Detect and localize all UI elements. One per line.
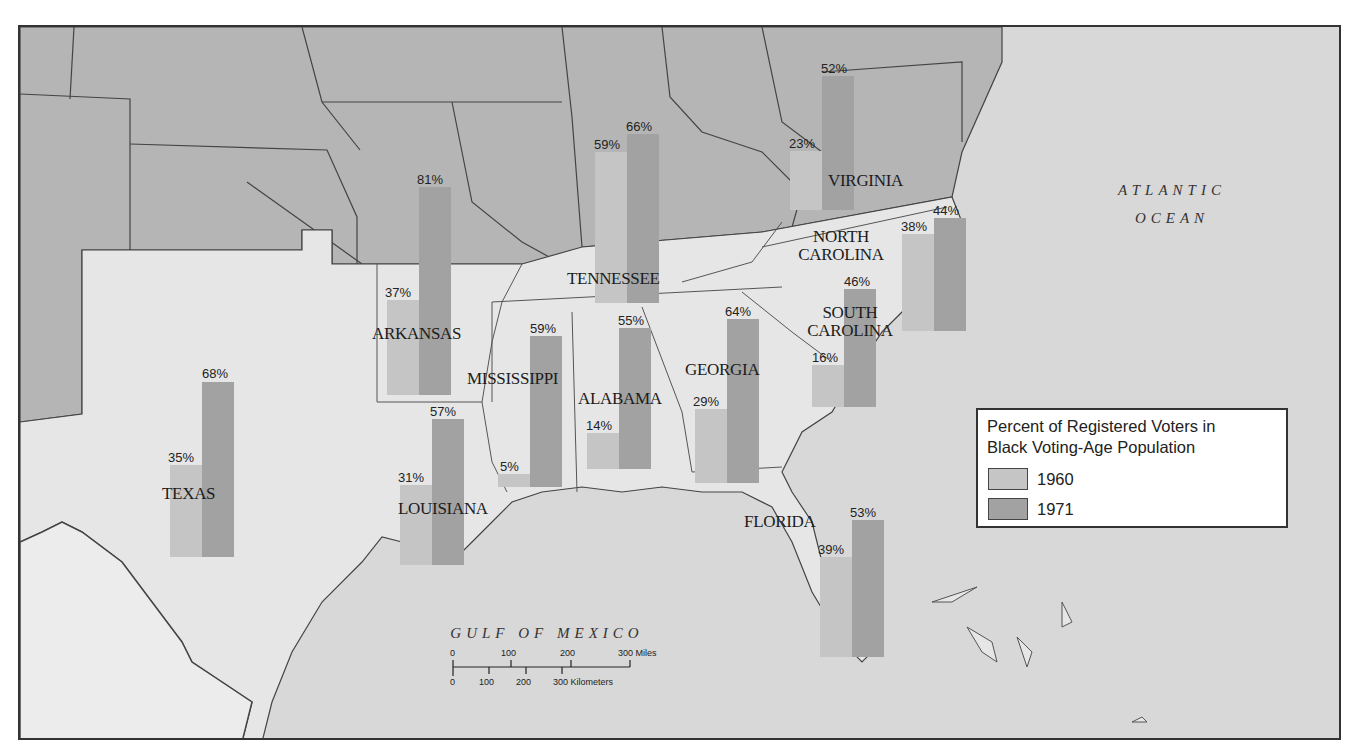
bar-north-carolina-1971 bbox=[934, 218, 966, 331]
scale-km-300: 300 Kilometers bbox=[553, 677, 613, 687]
state-label-virginia: VIRGINIA bbox=[828, 172, 903, 190]
legend-swatch-1960 bbox=[988, 468, 1028, 490]
scale-bar: 0 100 200 300 Miles 0 100 200 300 Kilome… bbox=[440, 650, 640, 710]
bar-alabama-1960 bbox=[587, 433, 619, 469]
legend-title-line2: Black Voting-Age Population bbox=[987, 437, 1215, 458]
bar-georgia-1971 bbox=[727, 319, 759, 483]
scale-miles-100: 100 bbox=[501, 648, 516, 658]
pct-tennessee-1960: 59% bbox=[594, 138, 620, 151]
state-label-north-carolina-line1: NORTH bbox=[787, 228, 895, 246]
state-label-florida: FLORIDA bbox=[744, 513, 816, 531]
legend: Percent of Registered Voters in Black Vo… bbox=[976, 408, 1288, 528]
legend-title: Percent of Registered Voters in Black Vo… bbox=[987, 416, 1215, 458]
bar-arkansas-1971 bbox=[419, 187, 451, 395]
bar-texas-1971 bbox=[202, 382, 234, 557]
pct-georgia-1960: 29% bbox=[693, 395, 719, 408]
state-label-north-carolina-line2: CAROLINA bbox=[787, 246, 895, 264]
scale-km-100: 100 bbox=[479, 677, 494, 687]
state-label-louisiana: LOUISIANA bbox=[398, 500, 488, 518]
pct-alabama-1960: 14% bbox=[586, 419, 612, 432]
state-label-texas: TEXAS bbox=[162, 485, 215, 503]
pct-mississippi-1960: 5% bbox=[500, 460, 519, 473]
pct-alabama-1971: 55% bbox=[618, 314, 644, 327]
pct-south-carolina-1971: 46% bbox=[844, 275, 870, 288]
pct-arkansas-1960: 37% bbox=[385, 286, 411, 299]
state-label-north-carolina: NORTH CAROLINA bbox=[787, 228, 895, 264]
bar-louisiana-1960 bbox=[400, 485, 432, 565]
state-label-alabama: ALABAMA bbox=[578, 390, 662, 408]
pct-tennessee-1971: 66% bbox=[626, 120, 652, 133]
legend-title-line1: Percent of Registered Voters in bbox=[987, 416, 1215, 437]
pct-louisiana-1971: 57% bbox=[430, 405, 456, 418]
bar-north-carolina-1960 bbox=[902, 234, 934, 331]
legend-label-1960: 1960 bbox=[1037, 470, 1074, 489]
pct-north-carolina-1971: 44% bbox=[933, 204, 959, 217]
legend-swatch-1971 bbox=[988, 498, 1028, 520]
bar-georgia-1960 bbox=[695, 409, 727, 483]
bar-louisiana-1971 bbox=[432, 419, 464, 565]
legend-item-1971: 1971 bbox=[988, 498, 1074, 520]
bar-arkansas-1960 bbox=[387, 300, 419, 395]
pct-texas-1971: 68% bbox=[202, 367, 228, 380]
pct-mississippi-1971: 59% bbox=[530, 322, 556, 335]
bar-virginia-1960 bbox=[790, 151, 822, 210]
state-label-georgia: GEORGIA bbox=[685, 361, 759, 379]
state-label-tennessee: TENNESSEE bbox=[567, 270, 660, 288]
state-label-south-carolina-line1: SOUTH bbox=[800, 304, 900, 322]
pct-georgia-1971: 64% bbox=[725, 305, 751, 318]
pct-virginia-1960: 23% bbox=[789, 137, 815, 150]
state-label-south-carolina: SOUTH CAROLINA bbox=[800, 304, 900, 340]
scale-km-200: 200 bbox=[516, 677, 531, 687]
bar-florida-1960 bbox=[820, 557, 852, 657]
bar-mississippi-1960 bbox=[498, 474, 530, 487]
legend-item-1960: 1960 bbox=[988, 468, 1074, 490]
pct-virginia-1971: 52% bbox=[821, 62, 847, 75]
legend-label-1971: 1971 bbox=[1037, 500, 1074, 519]
state-label-south-carolina-line2: CAROLINA bbox=[800, 322, 900, 340]
pct-texas-1960: 35% bbox=[168, 451, 194, 464]
bar-florida-1971 bbox=[852, 520, 884, 657]
state-label-mississippi: MISSISSIPPI bbox=[467, 370, 558, 388]
scale-miles-200: 200 bbox=[560, 648, 575, 658]
bar-texas-1960 bbox=[170, 465, 202, 557]
pct-arkansas-1971: 81% bbox=[417, 173, 443, 186]
scale-miles-0: 0 bbox=[450, 648, 455, 658]
pct-florida-1971: 53% bbox=[850, 506, 876, 519]
state-label-arkansas: ARKANSAS bbox=[372, 325, 461, 343]
pct-north-carolina-1960: 38% bbox=[901, 220, 927, 233]
label-atlantic-ocean-line2: OCEAN bbox=[1072, 210, 1272, 227]
label-gulf-of-mexico: GULF OF MEXICO bbox=[422, 625, 672, 642]
scale-miles-300: 300 Miles bbox=[618, 648, 657, 658]
pct-south-carolina-1960: 16% bbox=[812, 351, 838, 364]
bar-mississippi-1971 bbox=[530, 336, 562, 487]
scale-km-0: 0 bbox=[450, 677, 455, 687]
pct-florida-1960: 39% bbox=[818, 543, 844, 556]
pct-louisiana-1960: 31% bbox=[398, 471, 424, 484]
label-atlantic-ocean-line1: ATLANTIC bbox=[1072, 182, 1272, 199]
map-frame: 35% 68% TEXAS 37% 81% ARKANSAS 31% 57% L… bbox=[18, 25, 1341, 740]
bar-south-carolina-1960 bbox=[812, 365, 844, 407]
